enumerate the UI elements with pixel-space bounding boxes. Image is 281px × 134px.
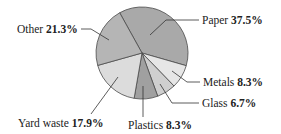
label-metals: Metals 8.3% — [203, 76, 263, 88]
pie-slices — [96, 7, 188, 99]
label-other: Other 21.3% — [17, 23, 78, 35]
pie-chart: Paper 37.5% Metals 8.3% Glass 6.7% Plast… — [0, 0, 281, 134]
label-glass: Glass 6.7% — [202, 97, 256, 109]
label-paper: Paper 37.5% — [202, 14, 263, 27]
label-plastics: Plastics 8.3% — [128, 119, 192, 131]
leader-line-yard-waste — [91, 77, 118, 114]
label-yard-waste: Yard waste 17.9% — [18, 117, 103, 129]
